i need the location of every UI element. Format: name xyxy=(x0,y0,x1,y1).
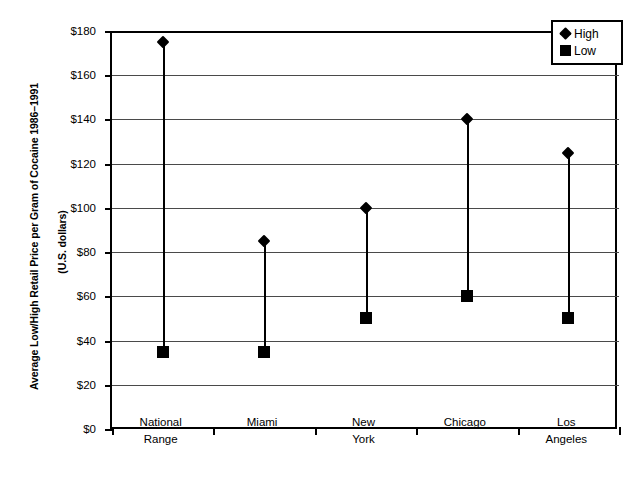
gridline xyxy=(112,31,619,33)
y-tick xyxy=(105,119,112,121)
range-stem xyxy=(264,241,266,352)
y-axis-tick-label: $80 xyxy=(0,246,96,258)
x-axis-category-line: York xyxy=(352,431,375,448)
x-axis-category-label: Chicago xyxy=(444,414,486,431)
y-tick xyxy=(105,429,112,431)
y-axis-tick-label: $160 xyxy=(0,69,96,81)
x-tick xyxy=(112,427,114,435)
x-tick xyxy=(213,427,215,435)
data-point-high xyxy=(461,113,474,126)
y-axis-tick-label: $120 xyxy=(0,158,96,170)
range-stem xyxy=(568,153,570,319)
range-stem xyxy=(366,208,368,319)
y-tick xyxy=(105,164,112,166)
y-tick xyxy=(105,75,112,77)
legend-item-high: High xyxy=(557,25,617,42)
data-point-low xyxy=(360,312,372,324)
x-axis-category-label: LosAngeles xyxy=(546,414,588,448)
gridline xyxy=(112,341,619,342)
x-axis-category-label: NewYork xyxy=(352,414,375,448)
y-tick xyxy=(105,385,112,387)
x-axis-category-line: Chicago xyxy=(444,414,486,431)
diamond-icon xyxy=(557,29,573,38)
square-icon xyxy=(557,45,573,56)
x-axis-category-line: Miami xyxy=(247,414,278,431)
data-point-high xyxy=(562,146,575,159)
data-point-high xyxy=(156,36,169,49)
x-axis-category-label: Miami xyxy=(247,414,278,431)
y-axis-tick-label: $20 xyxy=(0,379,96,391)
y-axis-tick-label: $40 xyxy=(0,335,96,347)
x-tick xyxy=(518,427,520,435)
y-axis-tick-label: $0 xyxy=(0,423,96,435)
chart-legend: High Low xyxy=(551,20,623,65)
legend-label-low: Low xyxy=(573,44,596,58)
legend-item-low: Low xyxy=(557,42,617,59)
data-point-low xyxy=(461,290,473,302)
data-point-low xyxy=(157,346,169,358)
y-axis-tick-label: $60 xyxy=(0,290,96,302)
x-axis-category-label: NationalRange xyxy=(140,414,182,448)
y-tick xyxy=(105,252,112,254)
x-axis-category-line: Angeles xyxy=(546,431,588,448)
x-axis-category-line: Los xyxy=(546,414,588,431)
data-point-low xyxy=(562,312,574,324)
gridline xyxy=(112,385,619,386)
x-axis-category-line: Range xyxy=(140,431,182,448)
plot-area xyxy=(110,31,617,429)
range-stem xyxy=(163,42,165,352)
gridline xyxy=(112,164,619,165)
y-axis-tick-label: $180 xyxy=(0,25,96,37)
x-axis-category-line: New xyxy=(352,414,375,431)
gridline xyxy=(112,75,619,76)
x-tick xyxy=(315,427,317,435)
data-point-high xyxy=(258,235,271,248)
plot-right-edge xyxy=(615,31,617,429)
y-tick xyxy=(105,341,112,343)
gridline xyxy=(112,119,619,120)
cocaine-price-range-chart: Average Low/High Retail Price per Gram o… xyxy=(0,0,641,500)
y-axis-tick-label: $100 xyxy=(0,202,96,214)
y-tick xyxy=(105,208,112,210)
x-axis-category-line: National xyxy=(140,414,182,431)
range-stem xyxy=(467,119,469,296)
legend-label-high: High xyxy=(573,27,599,41)
y-axis-tick-label: $140 xyxy=(0,113,96,125)
data-point-high xyxy=(359,202,372,215)
y-tick xyxy=(105,31,112,33)
data-point-low xyxy=(258,346,270,358)
x-tick xyxy=(619,427,621,435)
y-tick xyxy=(105,296,112,298)
x-tick xyxy=(416,427,418,435)
